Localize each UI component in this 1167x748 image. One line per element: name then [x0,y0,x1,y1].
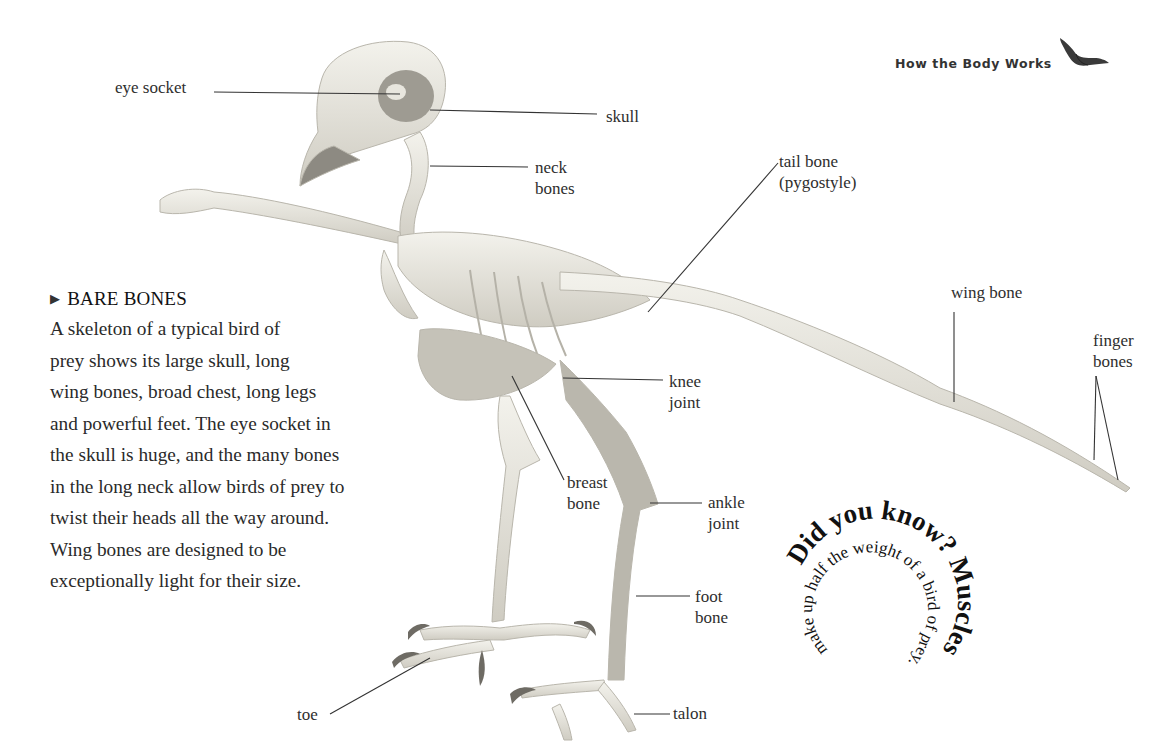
bare-bones-info-box: ▶ BARE BONES A skeleton of a typical bir… [50,288,450,597]
did-you-know-spiral: Did you know? Muscles make up half the w… [770,490,990,700]
label-eye-socket: eye socket [115,77,186,98]
label-foot-bone: foot bone [695,586,728,628]
label-ankle-joint: ankle joint [708,492,745,534]
label-skull: skull [606,106,639,127]
info-body-text: A skeleton of a typical bird of prey sho… [50,313,450,597]
label-toe: toe [297,704,318,725]
info-title-text: BARE BONES [67,288,187,310]
label-knee-joint: knee joint [669,371,701,413]
info-title: ▶ BARE BONES [50,288,450,310]
label-finger-bones: finger bones [1093,330,1134,372]
label-tail-bone: tail bone (pygostyle) [779,151,856,193]
label-breast-bone: breast bone [567,472,608,514]
triangle-marker-icon: ▶ [50,291,60,307]
did-you-know-fact: make up half the weight of a bird of pre… [797,537,943,672]
label-wing-bone: wing bone [951,282,1022,303]
label-neck-bones: neck bones [535,157,575,199]
label-talon: talon [673,703,707,724]
